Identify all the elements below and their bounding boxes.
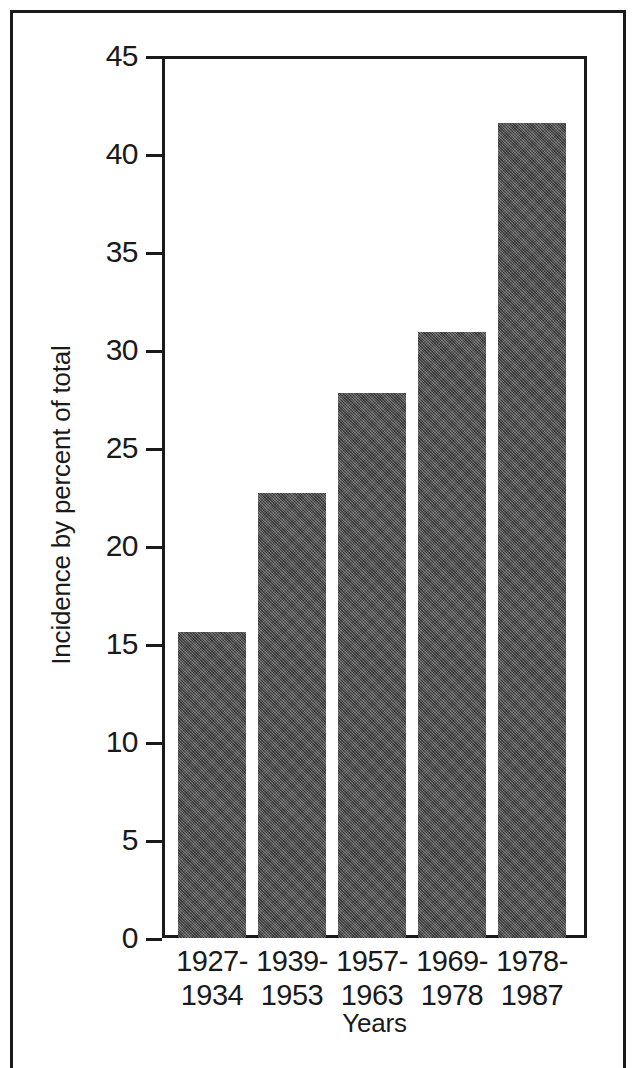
bars-layer <box>0 56 640 938</box>
x-axis-label-4-line1: 1978- <box>477 944 587 978</box>
bar-2 <box>338 393 406 938</box>
bar-1 <box>258 493 326 938</box>
x-axis-label-4-line2: 1987 <box>477 978 587 1012</box>
y-axis-tick <box>146 938 162 941</box>
bar-0 <box>178 632 246 938</box>
x-axis-label-4: 1978- 1987 <box>477 944 587 1012</box>
bar-3 <box>418 332 486 938</box>
bar-4 <box>498 123 566 938</box>
y-axis-title: Incidence by percent of total <box>46 340 76 670</box>
x-axis-title: Years <box>162 1008 587 1038</box>
